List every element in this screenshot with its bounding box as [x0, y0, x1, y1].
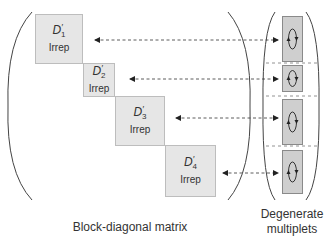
cycle-arrows-icon: [283, 151, 302, 193]
multiplets-caption: Degenerate multiplets: [252, 207, 332, 237]
block-symbol: D1′: [52, 24, 65, 41]
irrep-block-4: D4′ Irrep: [165, 145, 216, 197]
multiplet-box-4: [282, 150, 303, 194]
multiplets-caption-line1: Degenerate: [252, 207, 332, 222]
irrep-block-3: D3′ Irrep: [115, 96, 165, 146]
matrix-caption: Block-diagonal matrix: [40, 220, 220, 235]
block-symbol: D4′: [184, 156, 197, 173]
multiplet-box-1: [282, 16, 303, 62]
cycle-arrows-icon: [283, 100, 302, 144]
multiplet-box-2: [282, 65, 303, 92]
irrep-block-2: D2′ Irrep: [83, 63, 115, 97]
block-symbol: D2′: [92, 65, 105, 82]
block-label: Irrep: [180, 174, 201, 186]
matrix-left-paren: [8, 12, 32, 200]
block-label: Irrep: [89, 83, 110, 95]
cycle-arrows-icon: [283, 66, 302, 91]
irrep-block-1: D1′ Irrep: [35, 14, 83, 64]
block-label: Irrep: [49, 42, 70, 54]
multiplets-right-paren: [306, 12, 319, 200]
cycle-arrows-icon: [283, 17, 302, 61]
block-symbol: D3′: [133, 106, 146, 123]
multiplet-box-3: [282, 99, 303, 145]
multiplets-caption-line2: multiplets: [252, 222, 332, 237]
block-label: Irrep: [130, 124, 151, 136]
